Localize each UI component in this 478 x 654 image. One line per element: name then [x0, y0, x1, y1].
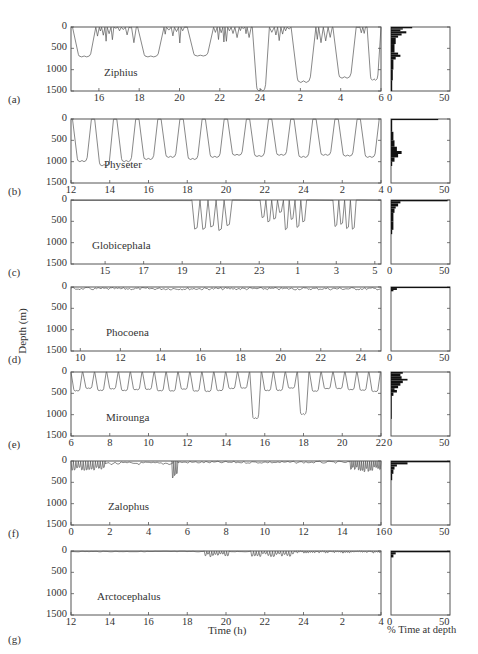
x-tick-label: 14 — [332, 526, 352, 537]
histogram-bar — [391, 28, 403, 29]
histogram-bar — [391, 287, 450, 288]
histogram-bar — [391, 461, 450, 462]
histogram-bar — [391, 552, 396, 554]
x-tick-label: 17 — [134, 265, 154, 276]
histogram-bar — [391, 140, 395, 146]
x-tick-label: 2 — [100, 526, 120, 537]
x-axis-label: Time (h) — [208, 624, 246, 636]
histogram-bar — [391, 132, 393, 141]
depth-tick-label: 500 — [31, 133, 67, 144]
x-tick-label: 2 — [332, 616, 352, 627]
depth-tick-label: 1500 — [31, 429, 67, 440]
hist-tick-label: 0 — [387, 92, 392, 103]
panel-letter: (e) — [8, 438, 20, 450]
depth-tick-label: 0 — [31, 112, 67, 123]
depth-tick-label: 500 — [31, 475, 67, 486]
histogram-bar — [391, 290, 393, 291]
x-tick-label: 24 — [294, 184, 314, 195]
histogram-bar — [391, 59, 393, 69]
histogram-bar — [391, 55, 400, 57]
x-tick-label: 14 — [151, 352, 171, 363]
depth-tick-label: 1500 — [31, 84, 67, 95]
depth-tick-label: 1500 — [31, 608, 67, 619]
histogram-frame — [391, 27, 450, 91]
panel-b — [71, 119, 450, 183]
dive-trace — [71, 551, 381, 557]
x-tick-label: 2 — [332, 184, 352, 195]
depth-tick-label: 1500 — [31, 518, 67, 529]
species-label: Mirounga — [106, 411, 149, 423]
x-tick-label: 20 — [332, 437, 352, 448]
depth-tick-label: 0 — [31, 20, 67, 31]
dive-plot-frame — [71, 119, 381, 183]
hist-tick-label: 50 — [439, 352, 450, 363]
histogram-bar — [391, 467, 395, 470]
x-tick-label: 20 — [170, 92, 190, 103]
depth-tick-label: 1000 — [31, 63, 67, 74]
y-axis-label: Depth (m) — [16, 301, 28, 361]
histogram-frame — [391, 200, 450, 264]
dive-trace — [71, 200, 381, 230]
histogram-bar — [391, 36, 398, 38]
histogram-bar — [391, 209, 395, 213]
x-tick-label: 22 — [255, 184, 275, 195]
depth-tick-label: 500 — [31, 386, 67, 397]
x-tick-label: 22 — [210, 92, 230, 103]
histogram-bar — [391, 221, 393, 230]
dive-trace — [71, 287, 380, 290]
histogram-bar — [391, 554, 393, 557]
hist-tick-label: 0 — [387, 265, 392, 276]
x-tick-label: 18 — [177, 184, 197, 195]
histogram-bar — [391, 474, 392, 480]
histogram-bar — [391, 53, 398, 55]
x-tick-label: 4 — [331, 92, 351, 103]
x-tick-label: 16 — [139, 184, 159, 195]
dive-plot-frame — [71, 372, 381, 436]
histogram-bar — [391, 44, 395, 53]
panel-a — [71, 27, 450, 91]
panel-letter: (a) — [8, 93, 20, 105]
histogram-bar — [391, 376, 402, 379]
x-tick-label: 20 — [216, 184, 236, 195]
x-tick-label: 10 — [70, 352, 90, 363]
histogram-bar — [391, 213, 393, 222]
depth-tick-label: 1500 — [31, 176, 67, 187]
depth-tick-label: 500 — [31, 214, 67, 225]
histogram-bar — [391, 203, 398, 206]
species-label: Arctocephalus — [97, 590, 161, 602]
species-label: Ziphius — [104, 66, 138, 78]
histogram-axis-label: % Time at depth — [387, 624, 456, 635]
histogram-bar — [391, 288, 397, 290]
hist-tick-label: 0 — [387, 352, 392, 363]
x-tick-label: 18 — [294, 437, 314, 448]
x-tick-label: 19 — [172, 265, 192, 276]
depth-tick-label: 500 — [31, 565, 67, 576]
x-tick-label: 22 — [311, 352, 331, 363]
dive-trace — [71, 461, 381, 478]
x-tick-label: 8 — [216, 526, 236, 537]
histogram-bar — [391, 154, 398, 157]
dive-plot-frame — [71, 287, 381, 351]
histogram-bar — [391, 201, 400, 203]
x-tick-label: 18 — [129, 92, 149, 103]
histogram-bar — [391, 372, 403, 374]
hist-tick-label: 0 — [387, 437, 392, 448]
hist-tick-label: 0 — [387, 526, 392, 537]
histogram-bar — [391, 151, 402, 154]
x-tick-label: 14 — [100, 616, 120, 627]
x-tick-label: 10 — [139, 437, 159, 448]
species-label: Physeter — [104, 158, 142, 170]
histogram-bar — [391, 120, 392, 132]
hist-tick-label: 50 — [439, 92, 450, 103]
histogram-bar — [391, 464, 397, 466]
depth-tick-label: 1000 — [31, 155, 67, 166]
histogram-bar — [391, 57, 396, 60]
depth-tick-label: 1500 — [31, 257, 67, 268]
histogram-bar — [391, 388, 395, 390]
histogram-bar — [391, 462, 408, 464]
histogram-bar — [391, 80, 392, 91]
dive-plot-frame — [71, 551, 381, 615]
x-tick-label: 8 — [100, 437, 120, 448]
histogram-bar — [391, 383, 400, 386]
depth-tick-label: 1000 — [31, 587, 67, 598]
